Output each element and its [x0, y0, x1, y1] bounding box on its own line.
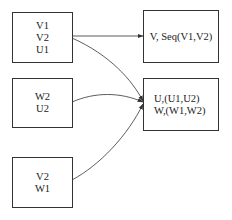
- node-line: V1: [36, 20, 49, 32]
- node-line: U2: [36, 103, 49, 115]
- edge-a-to-e: [72, 38, 143, 101]
- edge-c-to-e: [72, 104, 143, 180]
- node-line: U1: [36, 44, 49, 56]
- node-line: V2: [36, 32, 49, 44]
- node-w2-u2: W2 U2: [12, 78, 73, 128]
- node-line: V, Seq(V1,V2): [150, 31, 213, 43]
- node-v-seq: V, Seq(V1,V2): [143, 10, 219, 63]
- node-line: W2: [35, 91, 50, 103]
- node-u-w: U,(U1,U2) W,(W1,W2): [143, 78, 219, 131]
- node-line: W1: [35, 183, 50, 195]
- node-line: W,(W1,W2): [154, 105, 206, 117]
- node-line: U,(U1,U2): [154, 93, 200, 105]
- node-v2-w1: V2 W1: [12, 157, 73, 208]
- node-line: V2: [36, 171, 49, 183]
- node-v1-v2-u1: V1 V2 U1: [12, 12, 73, 63]
- edge-b-to-e: [72, 95, 143, 103]
